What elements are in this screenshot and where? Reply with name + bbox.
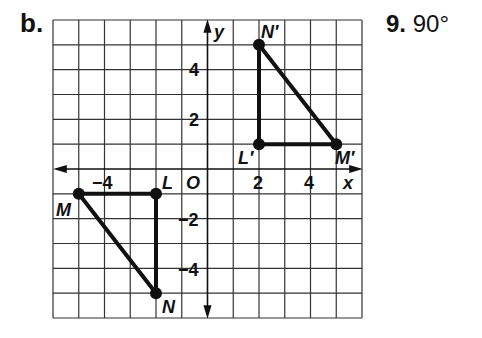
label-L: L [162, 173, 173, 193]
tick-x-4: 4 [304, 173, 314, 193]
point-M [73, 188, 85, 200]
tick-y-2: 2 [189, 110, 199, 130]
tick-x-2: 2 [253, 173, 263, 193]
point-N [150, 287, 162, 299]
label-M: M [56, 200, 72, 220]
axes [56, 22, 360, 316]
tick-y-neg4: −4 [178, 260, 199, 280]
label-N-prime: N′ [261, 22, 279, 42]
coordinate-plane: y x O −4 2 4 4 2 −2 −4 L M N L′ M′ N′ [0, 0, 482, 338]
origin-label: O [186, 173, 200, 193]
y-axis-down-arrow-icon [205, 306, 211, 316]
tick-y-4: 4 [189, 60, 199, 80]
y-axis-up-arrow-icon [205, 22, 211, 32]
label-N: N [162, 297, 176, 317]
tick-x-neg4: −4 [92, 173, 113, 193]
y-axis-label: y [213, 22, 225, 42]
x-axis-label: x [342, 173, 354, 193]
label-L-prime: L′ [238, 148, 254, 168]
label-M-prime: M′ [335, 148, 355, 168]
tick-y-neg2: −2 [178, 210, 199, 230]
x-axis-left-arrow-icon [56, 166, 66, 172]
point-L-prime [253, 138, 265, 150]
point-L [150, 188, 162, 200]
